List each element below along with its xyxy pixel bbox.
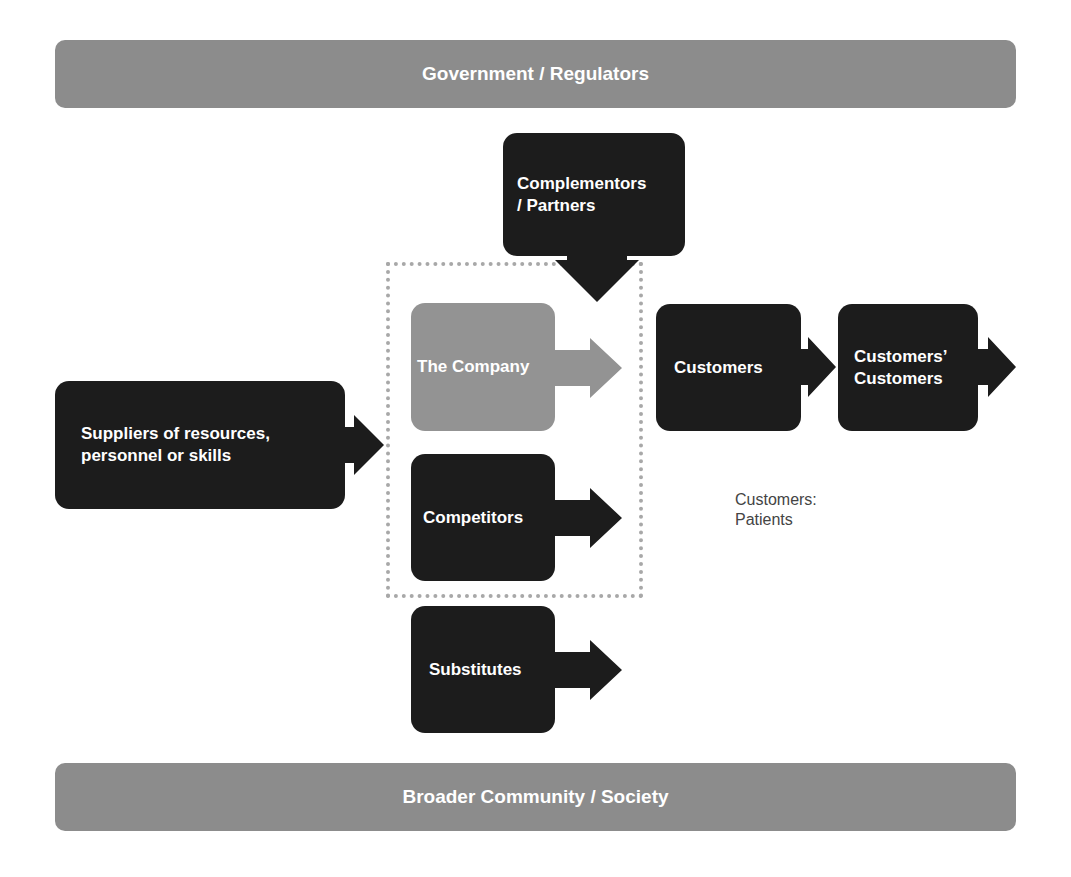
arrow-right-icon [340, 415, 386, 475]
government-regulators-label: Government / Regulators [422, 63, 649, 85]
arrow-right-icon [972, 337, 1018, 397]
broader-community-bar: Broader Community / Society [55, 763, 1016, 831]
complementors-label-line2: / Partners [517, 195, 646, 217]
government-regulators-bar: Government / Regulators [55, 40, 1016, 108]
suppliers-label-line1: Suppliers of resources, [81, 423, 270, 445]
complementors-label-line1: Complementors [517, 173, 646, 195]
arrow-right-icon [550, 488, 624, 548]
competitors-label: Competitors [423, 507, 523, 529]
customers-customers-label-line1: Customers’ [854, 346, 948, 368]
the-company-box: The Company [411, 303, 555, 431]
arrow-right-icon [550, 338, 624, 398]
competitors-box: Competitors [411, 454, 555, 581]
arrow-right-icon [550, 640, 624, 700]
the-company-label: The Company [417, 356, 529, 378]
arrow-right-icon [796, 337, 838, 397]
customers-note-line1: Customers: [735, 490, 817, 510]
complementors-partners-box: Complementors / Partners [503, 133, 685, 256]
arrow-down-icon [555, 250, 639, 302]
customers-note: Customers: Patients [735, 490, 817, 530]
customers-label: Customers [674, 357, 763, 379]
customers-customers-label-line2: Customers [854, 368, 948, 390]
suppliers-box: Suppliers of resources, personnel or ski… [55, 381, 345, 509]
broader-community-label: Broader Community / Society [402, 786, 668, 808]
substitutes-label: Substitutes [429, 659, 522, 681]
substitutes-box: Substitutes [411, 606, 555, 733]
customers-customers-box: Customers’ Customers [838, 304, 978, 431]
suppliers-label-line2: personnel or skills [81, 445, 270, 467]
customers-box: Customers [656, 304, 801, 431]
customers-note-line2: Patients [735, 510, 817, 530]
